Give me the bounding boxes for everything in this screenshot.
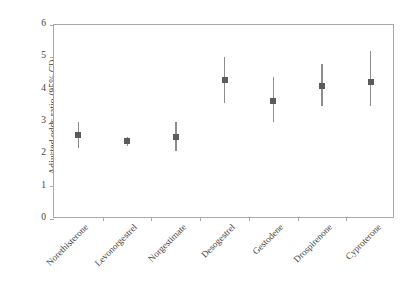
x-tick-label: Levonorgestrel [93,222,139,268]
y-tick-label: 3 [33,115,46,125]
x-tick-label: Norgestimate [146,222,188,264]
x-tick-mark [103,217,104,221]
y-tick-mark [50,154,54,155]
data-point-marker [173,134,179,140]
y-tick-label: 5 [33,50,46,60]
y-tick-label: 0 [33,212,46,222]
y-tick-mark [50,89,54,90]
x-tick-mark [298,217,299,221]
x-tick-label: Cyproterone [343,222,383,262]
x-tick-mark [151,217,152,221]
x-tick-label: Gestodene [251,222,285,256]
data-point-marker [270,98,276,104]
x-tick-mark [346,217,347,221]
y-tick-mark [50,57,54,58]
y-tick-mark [50,219,54,220]
x-tick-label: Desogestrel [199,222,237,260]
data-point-marker [319,83,325,89]
x-tick-label: Drospirenone [292,222,334,264]
x-tick-mark [200,217,201,221]
forest-plot-figure: Adjusted odds ratio (95% CI) 0123456 Nor… [0,0,415,290]
y-tick-mark [50,25,54,26]
data-point-marker [222,77,228,83]
data-point-marker [124,138,130,144]
x-tick-mark [249,217,250,221]
data-point-marker [75,132,81,138]
y-tick-label: 4 [33,83,46,93]
x-tick-label: Norethisterone [45,222,91,268]
y-tick-mark [50,122,54,123]
y-tick-mark [50,186,54,187]
y-tick-label: 6 [33,18,46,28]
data-point-marker [368,79,374,85]
plot-area: 0123456 [53,24,394,218]
y-tick-label: 1 [33,180,46,190]
y-tick-label: 2 [33,147,46,157]
